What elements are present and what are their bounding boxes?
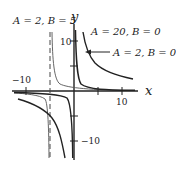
x-tick-label-neg10: −10 (12, 75, 31, 85)
hyperbola-chart: −10 10 10 −10 x y A = 2, B = 5 A = 20, B… (0, 0, 176, 170)
x-axis-label: x (145, 83, 153, 98)
y-tick-label-10: 10 (60, 37, 72, 47)
x-tick-label-10: 10 (116, 97, 128, 107)
annotation-a20-b0: A = 20, B = 0 (90, 26, 161, 37)
annotation-a2-b0: A = 2, B = 0 (112, 47, 176, 58)
curve-a20-b0-left (18, 99, 65, 158)
annotation-a2-b5: A = 2, B = 5 (12, 15, 76, 26)
curve-a2-b5-left (14, 93, 49, 158)
curve-a2-b0-left (14, 93, 73, 159)
y-tick-label-neg10: −10 (81, 136, 100, 146)
